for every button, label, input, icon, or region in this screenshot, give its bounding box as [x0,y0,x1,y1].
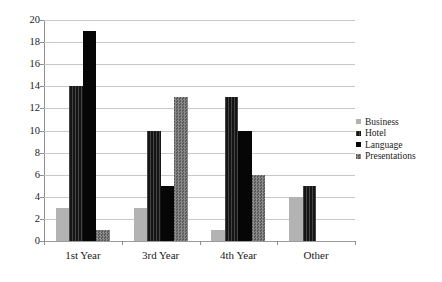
bar-hotel-1st-year [69,86,83,241]
x-axis-tick-mark [44,241,45,245]
y-axis-tick-label: 12 [6,103,40,113]
plot-area [44,20,355,241]
legend-swatch-presentations [356,154,361,159]
bar-language-4th-year [238,131,252,242]
x-axis-tick-label: 4th Year [200,249,278,262]
x-axis-tick-mark [200,241,201,245]
bar-business-4th-year [211,230,225,241]
bar-chart: 02468101214161820 1st Year3rd Year4th Ye… [0,0,442,282]
bar-presentations-4th-year [252,175,266,241]
chart-legend: BusinessHotelLanguagePresentations [356,116,442,162]
x-axis-tick-mark [277,241,278,245]
legend-swatch-language [356,142,361,147]
y-axis-tick-label: 0 [6,236,40,246]
bar-presentations-3rd-year [174,97,188,241]
bar-business-1st-year [56,208,70,241]
legend-item-language: Language [356,139,442,151]
legend-swatch-business [356,119,361,124]
x-axis-tick-mark [122,241,123,245]
bar-hotel-3rd-year [147,131,161,242]
x-axis-tick-label: 3rd Year [122,249,200,262]
y-axis-tick-label: 10 [6,126,40,136]
legend-item-presentations: Presentations [356,151,442,163]
y-axis-tick-label: 14 [6,81,40,91]
legend-label: Language [365,140,402,150]
x-axis-tick-label: 1st Year [44,249,122,262]
bar-presentations-1st-year [96,230,110,241]
legend-item-business: Business [356,116,442,128]
bar-hotel-4th-year [225,97,239,241]
legend-label: Business [365,117,399,127]
legend-swatch-hotel [356,131,361,136]
gridline [44,20,355,21]
bar-business-3rd-year [134,208,148,241]
bar-language-3rd-year [161,186,175,241]
y-axis-tick-label: 20 [6,15,40,25]
y-axis-tick-label: 16 [6,59,40,69]
legend-label: Presentations [365,151,416,161]
x-axis-tick-label: Other [277,249,355,262]
y-axis-tick-label: 6 [6,170,40,180]
bar-hotel-other [303,186,317,241]
x-axis-tick-mark [355,241,356,245]
y-axis-tick-label: 18 [6,37,40,47]
y-axis-tick-label: 8 [6,148,40,158]
legend-item-hotel: Hotel [356,128,442,140]
y-axis-tick-label: 2 [6,214,40,224]
bar-language-1st-year [83,31,97,241]
y-axis-tick-labels: 02468101214161820 [0,0,40,282]
bar-business-other [289,197,303,241]
legend-label: Hotel [365,128,386,138]
y-axis-tick-label: 4 [6,192,40,202]
